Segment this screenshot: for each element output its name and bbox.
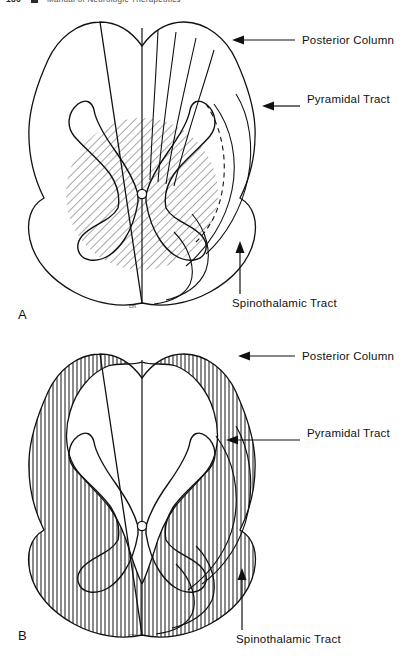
hatched-region-b [0,332,405,664]
central-canal [137,521,146,530]
leader-pyramidal-tract [262,102,300,111]
leader-spinothalamic-tract [236,241,245,294]
square-bullet-icon [31,0,38,3]
label-posterior-column: Posterior Column [302,33,394,47]
figure-panel-b: Posterior Column Pyramidal Tract Spinoth… [0,332,405,664]
central-canal [137,189,146,198]
figure-panel-a: Posterior Column Pyramidal Tract Spinoth… [0,8,405,330]
label-spinothalamic-tract: Spinothalamic Tract [232,296,337,310]
header-title: Manual of Neurologic Therapeutics [47,0,181,4]
label-spinothalamic-tract: Spinothalamic Tract [236,632,341,646]
panel-letter-a: A [18,307,27,322]
page-number: 186 [6,0,21,4]
scale-mark-cm: cm [129,632,136,638]
label-pyramidal-tract: Pyramidal Tract [307,92,391,106]
label-pyramidal-tract: Pyramidal Tract [307,426,391,440]
leader-posterior-column [232,36,295,45]
scale-mark-cm: cm [129,303,136,309]
panel-letter-b: B [18,628,27,643]
label-posterior-column: Posterior Column [302,349,394,363]
running-header: 186Manual of Neurologic Therapeutics [0,0,405,7]
